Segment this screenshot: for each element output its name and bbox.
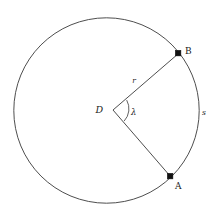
- point-marker-b: [175, 50, 181, 56]
- label-point-b: B: [185, 46, 192, 56]
- label-angle-lambda: λ: [130, 107, 136, 117]
- point-marker-a: [167, 173, 173, 179]
- label-point-a: A: [174, 181, 182, 191]
- figure-canvas: B A D r s λ: [0, 0, 218, 221]
- circle-sector-diagram: B A D r s λ: [0, 0, 218, 221]
- label-arc-s: s: [202, 108, 206, 117]
- label-radius-r: r: [132, 76, 136, 85]
- label-center-d: D: [94, 104, 103, 115]
